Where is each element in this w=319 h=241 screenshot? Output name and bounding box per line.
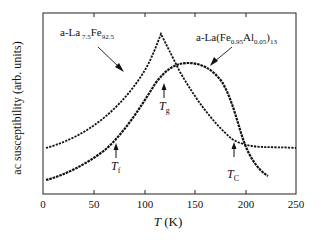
tc-label: TC xyxy=(227,167,239,183)
x-axis-label: T (K) xyxy=(154,214,183,229)
series-b-curve xyxy=(46,63,268,180)
tf-label: Tf xyxy=(111,159,121,175)
series-a-label: a-La 7.5Fe92.5 xyxy=(60,26,114,41)
tf-marker: Tf xyxy=(111,143,121,175)
susceptibility-chart: 0 50 100 150 200 250 T (K) ac susceptibi… xyxy=(0,0,319,241)
y-axis-label: ac susceptibility (arb. units) xyxy=(10,41,24,174)
tg-marker: Tg xyxy=(159,83,170,115)
series-a-curve xyxy=(46,34,296,148)
tc-marker: TC xyxy=(227,142,239,183)
tick-label-150: 150 xyxy=(187,198,204,210)
tick-label-200: 200 xyxy=(238,198,255,210)
x-ticks-bottom xyxy=(94,190,246,194)
tick-label-0: 0 xyxy=(40,198,46,210)
tick-label-250: 250 xyxy=(288,198,305,210)
tg-label: Tg xyxy=(159,99,170,115)
series-b-pointer-arrow xyxy=(210,47,232,66)
x-tick-labels: 0 50 100 150 200 250 xyxy=(40,198,305,210)
series-a-pointer-arrow xyxy=(98,47,124,72)
series-b-label: a-La(Fe0.95Al0.05)13 xyxy=(196,31,277,46)
tick-label-50: 50 xyxy=(89,198,101,210)
x-ticks-top xyxy=(94,13,246,17)
tick-label-100: 100 xyxy=(137,198,154,210)
